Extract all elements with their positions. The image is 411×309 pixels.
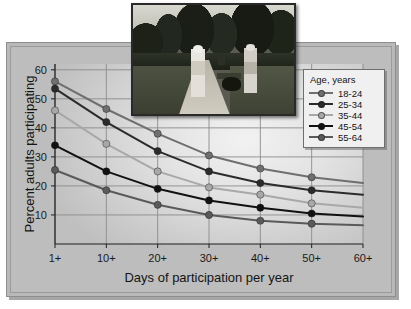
legend-item-label: 35-44 (338, 110, 362, 121)
legend-item-18-24: 18-24 (309, 88, 380, 98)
photo-walker-right (244, 48, 257, 94)
legend: Age, years 18-2425-3435-4445-5455-64 (303, 69, 385, 148)
x-tick-label: 40+ (251, 252, 270, 264)
legend-item-25-34: 25-34 (309, 99, 380, 109)
legend-swatch-icon (309, 132, 333, 142)
legend-title: Age, years (310, 74, 380, 85)
x-tick-label: 60+ (354, 252, 373, 264)
legend-item-45-54: 45-54 (309, 121, 380, 131)
legend-swatch-icon (309, 88, 333, 98)
figure-container: 102030405060 1+10+20+30+40+50+60+ Days o… (0, 0, 411, 309)
x-tick-label: 10+ (97, 252, 116, 264)
legend-item-label: 18-24 (338, 88, 362, 99)
legend-items: 18-2425-3435-4445-5455-64 (309, 88, 380, 142)
legend-item-label: 25-34 (338, 99, 362, 110)
photo-distant-person (218, 54, 224, 65)
y-axis-title: Percent adults participating (22, 64, 37, 244)
x-tick-label: 1+ (49, 252, 62, 264)
legend-swatch-icon (309, 99, 333, 109)
legend-item-55-64: 55-64 (309, 132, 380, 142)
x-tick-label: 30+ (200, 252, 219, 264)
photo-walker-left (191, 49, 205, 97)
legend-item-35-44: 35-44 (309, 110, 380, 120)
legend-swatch-icon (309, 110, 333, 120)
legend-item-label: 55-64 (338, 132, 362, 143)
legend-swatch-icon (309, 121, 333, 131)
photo-trees (133, 5, 294, 56)
x-tick-label: 50+ (302, 252, 321, 264)
photo-walker-left-head (193, 45, 203, 53)
photo-inset (131, 3, 296, 116)
photo-dog (222, 77, 241, 91)
x-tick-label: 20+ (148, 252, 167, 264)
x-axis-title: Days of participation per year (55, 270, 363, 285)
legend-item-label: 45-54 (338, 121, 362, 132)
